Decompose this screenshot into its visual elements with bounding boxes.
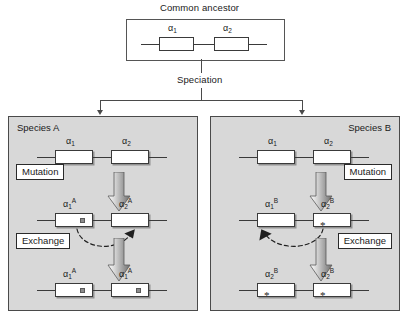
speciation-line-bottom — [201, 88, 202, 100]
gene-line — [37, 290, 55, 291]
species-a-row1-gene-label-1: α1 — [66, 136, 75, 147]
gene-subscript: 1 — [273, 140, 277, 147]
species-b-row3-gene-label-1: α2B — [265, 269, 278, 280]
species-a-step-exchange: Exchange — [16, 233, 70, 249]
species-a-row3-gene-box-2 — [111, 283, 149, 297]
ancestor-line-left — [141, 44, 159, 45]
gene-line — [239, 220, 257, 221]
common-ancestor-box: α1 α2 — [126, 19, 285, 61]
mutation-marker-asterisk: * — [264, 292, 270, 299]
species-a-row1-gene-label-2: α2 — [122, 136, 131, 147]
gene-superscript: B — [330, 267, 334, 274]
ancestor-gene-label-1: α1 — [168, 23, 177, 34]
gene-subscript: 1 — [68, 203, 72, 210]
gene-line — [149, 290, 167, 291]
ancestor-gene-label-2: α2 — [223, 23, 232, 34]
gene-line — [149, 157, 167, 158]
gene-subscript: 2 — [329, 140, 333, 147]
species-b-row1-gene-label-2: α2 — [324, 136, 333, 147]
species-a-row1-gene-box-2 — [111, 150, 149, 164]
gene-superscript: B — [274, 267, 278, 274]
gene-superscript: B — [274, 197, 278, 204]
gene-line — [37, 157, 55, 158]
arrowhead-down-icon — [299, 110, 305, 115]
gene-subscript: 2 — [228, 27, 232, 34]
ancestor-gene-box-2 — [214, 37, 249, 51]
speciation-label: Speciation — [177, 74, 222, 85]
species-b-row2-gene-label-1: α1B — [265, 199, 278, 210]
species-b-row3-gene-box-2: * — [313, 283, 351, 297]
speciation-line-top — [201, 59, 202, 73]
species-a-label: Species A — [17, 122, 59, 133]
ancestor-line-right — [249, 44, 267, 45]
species-b-row3-gene-label-2: α2B — [321, 269, 334, 280]
mutation-marker-square — [80, 288, 85, 293]
species-b-panel: Species B α1 α2 — [210, 116, 400, 311]
gene-line — [239, 157, 257, 158]
species-a-row3-gene-box-1 — [55, 283, 93, 297]
gene-line — [351, 157, 369, 158]
gene-superscript: A — [72, 197, 76, 204]
gene-superscript: A — [72, 267, 76, 274]
mutation-marker-square — [80, 218, 85, 223]
species-a-row2-gene-label-2: α2A — [119, 199, 132, 210]
species-b-step-exchange: Exchange — [338, 233, 392, 249]
gene-subscript: 2 — [326, 273, 330, 280]
gene-superscript: A — [128, 197, 132, 204]
gene-line — [37, 220, 55, 221]
gene-subscript: 1 — [68, 273, 72, 280]
mutation-marker-square — [136, 288, 141, 293]
species-a-row3-gene-label-2: α1A — [119, 269, 132, 280]
gene-line — [295, 290, 313, 291]
gene-line — [93, 220, 111, 221]
species-b-label: Species B — [348, 122, 391, 133]
gene-line — [149, 220, 167, 221]
species-b-row1-gene-label-1: α1 — [268, 136, 277, 147]
mutation-marker-asterisk: * — [320, 292, 326, 299]
speciation-branch-horizontal — [100, 100, 303, 101]
gene-line — [239, 290, 257, 291]
gene-subscript: 1 — [124, 273, 128, 280]
gene-line — [93, 157, 111, 158]
gene-line — [295, 157, 313, 158]
species-a-row3-gene-label-1: α1A — [63, 269, 76, 280]
species-a-panel: Species A α1 α2 — [8, 116, 198, 311]
gene-line — [295, 220, 313, 221]
gene-subscript: 2 — [124, 203, 128, 210]
arrowhead-down-icon — [97, 110, 103, 115]
common-ancestor-title: Common ancestor — [160, 2, 239, 13]
gene-line — [93, 290, 111, 291]
species-b-row3-gene-box-1: * — [257, 283, 295, 297]
species-b-row1-gene-box-2 — [313, 150, 351, 164]
gene-superscript: A — [128, 267, 132, 274]
gene-subscript: 1 — [270, 203, 274, 210]
gene-subscript: 1 — [173, 27, 177, 34]
species-b-row2-gene-label-2: α2B — [321, 199, 334, 210]
species-a-step-mutation: Mutation — [16, 164, 64, 180]
gene-line — [351, 290, 369, 291]
diagram-canvas: Common ancestor α1 α2 Speciation Species… — [0, 0, 410, 321]
gene-subscript: 2 — [326, 203, 330, 210]
gene-subscript: 2 — [127, 140, 131, 147]
species-b-row1-gene-box-1 — [257, 150, 295, 164]
gene-line — [351, 220, 369, 221]
gene-subscript: 1 — [71, 140, 75, 147]
species-a-row1-gene-box-1 — [55, 150, 93, 164]
gene-superscript: B — [330, 197, 334, 204]
ancestor-line-mid — [194, 44, 214, 45]
species-a-row2-gene-label-1: α1A — [63, 199, 76, 210]
gene-subscript: 2 — [270, 273, 274, 280]
species-b-step-mutation: Mutation — [344, 164, 392, 180]
ancestor-gene-box-1 — [159, 37, 194, 51]
